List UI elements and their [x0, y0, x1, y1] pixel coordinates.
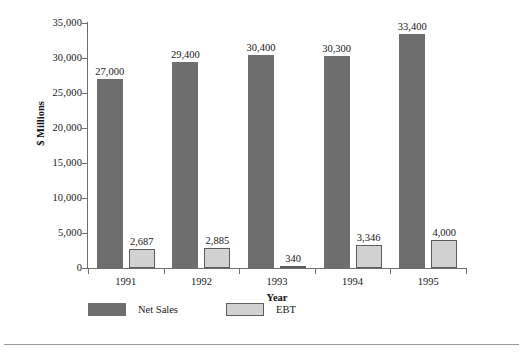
x-tick-mark	[239, 268, 240, 274]
bar-value-label: 30,300	[312, 43, 362, 54]
x-category-label-1994: 1994	[323, 276, 383, 288]
y-tick-label: 0	[20, 263, 82, 274]
y-tick-label-wrap: 5,000	[12, 228, 82, 239]
y-tick-label: 15,000	[20, 158, 82, 169]
x-tick-mark	[466, 268, 467, 274]
bar-ebt-1992	[204, 248, 230, 268]
legend-swatch-icon	[88, 303, 126, 316]
bar-ebt-1994	[356, 245, 382, 268]
y-tick-label: 35,000	[20, 18, 82, 29]
bar-value-label: 3,346	[344, 232, 394, 243]
y-tick-label-wrap: 0	[12, 263, 82, 274]
x-axis-line	[87, 268, 467, 269]
x-category-label-1995: 1995	[398, 276, 458, 288]
bar-value-label: 4,000	[419, 227, 469, 238]
y-tick-label: 30,000	[20, 53, 82, 64]
y-tick-label-wrap: 15,000	[12, 158, 82, 169]
y-tick-label-wrap: 30,000	[12, 53, 82, 64]
x-tick-mark	[315, 268, 316, 274]
legend-label: EBT	[276, 304, 296, 315]
bar-value-label: 2,885	[192, 235, 242, 246]
y-tick-label-wrap: 25,000	[12, 88, 82, 99]
bar-value-label: 30,400	[236, 42, 286, 53]
bar-net-sales-1993	[248, 55, 274, 268]
y-tick-label: 10,000	[20, 193, 82, 204]
x-category-label-1992: 1992	[171, 276, 231, 288]
plot-area	[88, 23, 466, 268]
legend-item-net-sales: Net Sales	[88, 303, 178, 316]
x-axis-title: Year	[88, 292, 466, 303]
x-tick-mark	[164, 268, 165, 274]
y-tick-label: 5,000	[20, 228, 82, 239]
x-tick-mark	[390, 268, 391, 274]
bar-ebt-1991	[129, 249, 155, 268]
x-category-label-1991: 1991	[96, 276, 156, 288]
bar-value-label: 33,400	[387, 21, 437, 32]
bar-ebt-1995	[431, 240, 457, 268]
legend-item-ebt: EBT	[226, 303, 296, 316]
y-tick-label-wrap: 10,000	[12, 193, 82, 204]
y-tick-label: 25,000	[20, 88, 82, 99]
bar-value-label: 27,000	[85, 66, 135, 77]
y-tick-label-wrap: 20,000	[12, 123, 82, 134]
bar-value-label: 29,400	[160, 49, 210, 60]
bar-value-label: 2,687	[117, 236, 167, 247]
x-tick-mark	[88, 268, 89, 274]
y-tick-label: 20,000	[20, 123, 82, 134]
bottom-divider	[4, 344, 519, 345]
legend-label: Net Sales	[138, 304, 178, 315]
chart-figure: $ Millions 05,00010,00015,00020,00025,00…	[0, 0, 523, 356]
bar-ebt-1993	[280, 266, 306, 268]
y-tick-label-wrap: 35,000	[12, 18, 82, 29]
x-category-label-1993: 1993	[247, 276, 307, 288]
bar-value-label: 340	[268, 253, 318, 264]
legend-swatch-icon	[226, 303, 264, 316]
